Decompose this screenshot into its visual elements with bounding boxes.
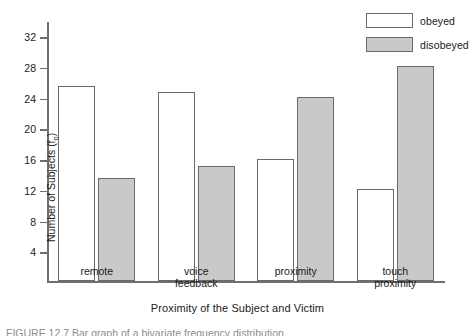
x-axis-title: Proximity of the Subject and Victim	[0, 302, 475, 314]
y-tick-mark	[40, 129, 48, 130]
bar-disobeyed-touch-proximity	[397, 66, 434, 281]
y-tick-label: 20	[24, 124, 36, 135]
x-category-label-3: touch proximity	[346, 266, 446, 289]
y-axis-title-subscript: o	[51, 136, 60, 140]
plot-area: 48121620242832 Number of Subjects (fo)	[47, 22, 445, 283]
x-category-label-2: proximity	[246, 266, 346, 278]
x-category-label-1: voice feedback	[147, 266, 247, 289]
y-tick-label: 32	[24, 32, 36, 43]
x-category-label-0: remote	[47, 266, 147, 278]
bar-obeyed-proximity	[257, 159, 294, 282]
y-axis-title-main: Number of Subjects (f	[45, 140, 57, 242]
y-tick-label: 16	[24, 155, 36, 166]
y-tick-label: 8	[30, 216, 36, 227]
y-axis-title-suffix: )	[45, 133, 57, 137]
y-tick-label: 24	[24, 94, 36, 105]
y-tick-label: 4	[30, 247, 36, 258]
y-tick-mark	[40, 68, 48, 69]
figure-caption: FIGURE 12.7 Bar graph of a bivariate fre…	[6, 327, 471, 336]
y-tick-mark	[40, 99, 48, 100]
y-tick-label: 28	[24, 63, 36, 74]
y-tick-label: 12	[24, 186, 36, 197]
y-tick-mark	[40, 37, 48, 38]
y-axis-title: Number of Subjects (fo)	[45, 228, 60, 242]
bar-obeyed-remote	[58, 86, 95, 282]
bar-obeyed-voice-feedback	[158, 92, 195, 282]
bar-disobeyed-proximity	[297, 97, 334, 281]
y-tick-mark	[40, 252, 48, 253]
bar-chart-figure: obeyed disobeyed 48121620242832 Number o…	[0, 0, 475, 336]
